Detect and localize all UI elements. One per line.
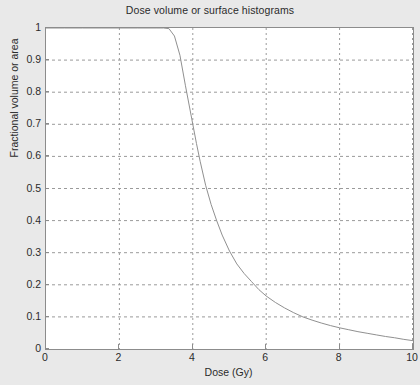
x-tick-mark bbox=[45, 344, 46, 349]
x-tick-label: 0 bbox=[30, 352, 60, 363]
x-tick-label: 10 bbox=[397, 352, 420, 363]
x-tick-mark bbox=[118, 344, 119, 349]
x-tick-label: 8 bbox=[324, 352, 354, 363]
x-tick-mark bbox=[192, 344, 193, 349]
x-tick-label: 2 bbox=[103, 352, 133, 363]
x-tick-mark bbox=[412, 344, 413, 349]
x-tick-label: 6 bbox=[250, 352, 280, 363]
x-tick-label: 4 bbox=[177, 352, 207, 363]
chart-figure: Dose volume or surface histograms Fracti… bbox=[0, 0, 420, 385]
x-tick-mark bbox=[265, 344, 266, 349]
x-axis-label: Dose (Gy) bbox=[45, 366, 412, 378]
x-axis-ticks: 0246810 bbox=[0, 0, 420, 385]
x-tick-mark bbox=[339, 344, 340, 349]
